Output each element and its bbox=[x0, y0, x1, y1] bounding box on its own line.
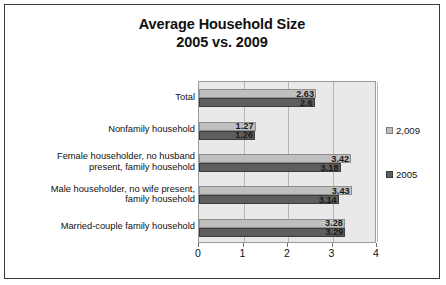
bar-value-label: 3.29 bbox=[319, 228, 343, 237]
legend-swatch bbox=[386, 171, 393, 178]
legend-swatch bbox=[386, 127, 393, 134]
bar-value-label: 2.6 bbox=[289, 99, 313, 108]
category-label-line: Nonfamily household bbox=[15, 124, 195, 135]
chart-title-line-1: Average Household Size bbox=[5, 15, 439, 33]
gridline bbox=[377, 82, 378, 242]
axis-tick-label: 0 bbox=[195, 247, 201, 259]
category-label-line: Male householder, no wife present, bbox=[15, 184, 195, 195]
axis-tick-label: 4 bbox=[373, 247, 379, 259]
value-axis: 01234 bbox=[198, 243, 376, 263]
legend-label: 2,009 bbox=[396, 125, 420, 136]
bar-value-label: 3.18 bbox=[315, 164, 339, 173]
chart-frame: Average Household Size 2005 vs. 2009 Tot… bbox=[4, 4, 440, 279]
chart-title: Average Household Size 2005 vs. 2009 bbox=[5, 15, 439, 51]
legend-item[interactable]: 2,009 bbox=[386, 125, 420, 136]
category-label: Male householder, no wife present,family… bbox=[15, 184, 195, 206]
legend-item[interactable]: 2005 bbox=[386, 169, 417, 180]
category-axis-labels: TotalNonfamily householdFemale household… bbox=[15, 81, 195, 243]
chart-title-line-2: 2005 vs. 2009 bbox=[5, 33, 439, 51]
category-label: Married-couple family household bbox=[15, 221, 195, 232]
axis-tick-label: 2 bbox=[284, 247, 290, 259]
bar-value-label: 1.26 bbox=[229, 131, 253, 140]
category-label-line: Female householder, no husband bbox=[15, 151, 195, 162]
category-label-line: family household bbox=[15, 194, 195, 205]
bar-value-label: 3.14 bbox=[313, 196, 337, 205]
category-label: Female householder, no husbandpresent, f… bbox=[15, 151, 195, 173]
legend-label: 2005 bbox=[396, 169, 417, 180]
axis-tick-label: 3 bbox=[329, 247, 335, 259]
category-label: Nonfamily household bbox=[15, 124, 195, 135]
category-label-line: Married-couple family household bbox=[15, 221, 195, 232]
axis-tick-label: 1 bbox=[240, 247, 246, 259]
category-label: Total bbox=[15, 92, 195, 103]
category-label-line: Total bbox=[15, 92, 195, 103]
category-label-line: present, family household bbox=[15, 162, 195, 173]
plot-area: 2.632.61.271.263.423.183.433.143.283.29 bbox=[198, 81, 376, 243]
